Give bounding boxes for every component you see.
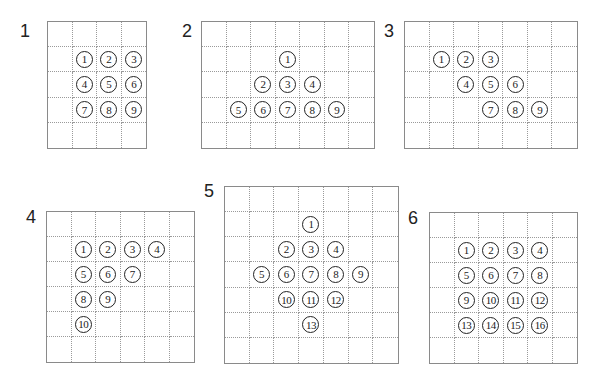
grid-cell (325, 123, 350, 148)
grid-cell (250, 187, 275, 212)
numbered-circle-token: 1 (76, 51, 93, 68)
grid-cell (553, 238, 578, 263)
grid-cell: 15 (504, 313, 529, 338)
grid-cell (47, 262, 72, 287)
grid-cell (225, 212, 250, 237)
grid-cell (349, 72, 374, 97)
grid-cell (274, 338, 299, 363)
numbered-circle-token: 3 (302, 241, 319, 258)
grid-cell: 14 (479, 313, 504, 338)
grid-cell: 11 (299, 288, 324, 313)
grid-cell (349, 338, 374, 363)
grid-cell (552, 47, 577, 72)
numbered-circle-token: 8 (327, 266, 344, 283)
numbered-circle-token: 4 (76, 76, 93, 93)
grid-cell (503, 123, 528, 148)
grid-cell: 2 (251, 72, 276, 97)
grid-board: 12345678910 (46, 211, 195, 363)
grid-cell (479, 338, 504, 363)
grid-cell: 9 (528, 98, 553, 123)
grid-cell (553, 338, 578, 363)
grid-cell (349, 237, 374, 262)
numbered-circle-token: 2 (457, 51, 474, 68)
grid-cell (145, 312, 170, 337)
numbered-circle-token: 1 (302, 216, 319, 233)
numbered-circle-token: 7 (76, 101, 93, 118)
grid-cell: 9 (349, 262, 374, 287)
grid-cell (48, 123, 73, 148)
grid-cell (170, 287, 195, 312)
grid-cell (225, 288, 250, 313)
grid-cell (528, 123, 553, 148)
numbered-circle-token: 8 (304, 101, 321, 118)
numbered-circle-token: 4 (531, 242, 548, 259)
numbered-circle-token: 5 (458, 267, 475, 284)
grid-cell: 6 (122, 72, 147, 97)
grid-cell (96, 212, 121, 237)
grid-cell: 8 (503, 98, 528, 123)
grid-cell: 2 (479, 238, 504, 263)
grid-cell (373, 237, 398, 262)
grid-cell (202, 123, 227, 148)
numbered-circle-token: 4 (327, 241, 344, 258)
grid-cell (251, 22, 276, 47)
grid-cell: 5 (97, 72, 122, 97)
grid-cell (47, 212, 72, 237)
grid-cell (225, 338, 250, 363)
grid-cell (48, 72, 73, 97)
grid-cell: 1 (455, 238, 480, 263)
grid-cell: 12 (528, 288, 553, 313)
grid-cell (122, 22, 147, 47)
grid-cell (122, 123, 147, 148)
grid-cell: 3 (122, 47, 147, 72)
grid-cell: 7 (479, 98, 504, 123)
grid-cell (528, 47, 553, 72)
grid-cell (299, 187, 324, 212)
panel-label: 4 (26, 208, 36, 226)
numbered-circle-token: 15 (507, 317, 524, 334)
grid-cell: 8 (300, 98, 325, 123)
grid-cell (528, 22, 553, 47)
grid-cell (145, 287, 170, 312)
numbered-circle-token: 9 (125, 101, 142, 118)
grid-cell: 3 (121, 237, 146, 262)
grid-cell (121, 337, 146, 362)
grid-cell (504, 338, 529, 363)
grid-cell (405, 72, 430, 97)
grid-cell (250, 212, 275, 237)
numbered-circle-token: 1 (458, 242, 475, 259)
numbered-circle-token: 3 (507, 242, 524, 259)
grid-cell (202, 72, 227, 97)
numbered-circle-token: 4 (457, 76, 474, 93)
grid-cell: 6 (96, 262, 121, 287)
numbered-circle-token: 2 (100, 51, 117, 68)
numbered-circle-token: 6 (125, 76, 142, 93)
grid-cell (373, 262, 398, 287)
grid-cell (250, 338, 275, 363)
grid-cell (300, 22, 325, 47)
grid-cell: 6 (251, 98, 276, 123)
grid-cell (250, 288, 275, 313)
grid-cell (528, 72, 553, 97)
grid-cell (276, 123, 301, 148)
grid-cell (455, 338, 480, 363)
numbered-circle-token: 12 (531, 292, 548, 309)
grid-cell (276, 22, 301, 47)
numbered-circle-token: 1 (279, 51, 296, 68)
grid-cell (552, 123, 577, 148)
grid-cell (373, 338, 398, 363)
grid-cell: 4 (454, 72, 479, 97)
grid-cell (97, 22, 122, 47)
numbered-circle-token: 4 (148, 241, 165, 258)
grid-cell (170, 262, 195, 287)
grid-cell (251, 47, 276, 72)
grid-cell: 11 (504, 288, 529, 313)
grid-cell (72, 212, 97, 237)
grid-cell: 3 (276, 72, 301, 97)
grid-cell: 5 (227, 98, 252, 123)
grid-cell: 4 (324, 237, 349, 262)
grid-cell (504, 213, 529, 238)
grid-cell (430, 123, 455, 148)
numbered-circle-token: 14 (482, 317, 499, 334)
numbered-circle-token: 3 (124, 241, 141, 258)
